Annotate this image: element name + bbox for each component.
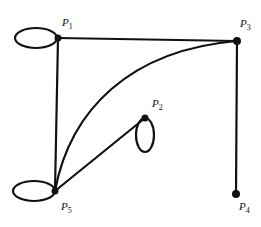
label-p4: P4 — [238, 200, 250, 215]
vertex-p4 — [232, 190, 240, 198]
edge-p5-p2 — [55, 118, 145, 191]
label-p3: P3 — [239, 17, 251, 32]
vertex-p2 — [142, 115, 149, 122]
loop-p2 — [136, 118, 154, 152]
label-p1: P1 — [61, 16, 73, 31]
graph-diagram: P1 P2 P3 P4 P5 — [0, 0, 261, 227]
loop-p1 — [15, 28, 57, 48]
label-p5: P5 — [60, 200, 72, 215]
label-p2: P2 — [151, 97, 163, 112]
loop-p5 — [13, 181, 55, 201]
vertex-p5 — [52, 188, 59, 195]
vertex-p1 — [55, 35, 62, 42]
edge-p1-p5 — [55, 38, 58, 191]
edge-p3-p4 — [236, 41, 237, 194]
edge-p1-p3 — [58, 38, 237, 41]
vertex-p3 — [233, 37, 241, 45]
